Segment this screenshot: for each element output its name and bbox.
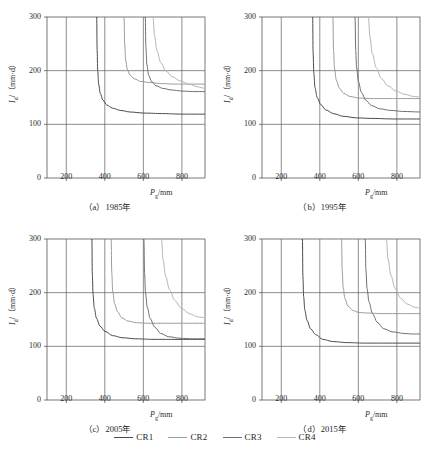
curve-group bbox=[96, 17, 205, 114]
panel-caption-a: （a）1985年 bbox=[0, 200, 215, 212]
plot-area-b bbox=[215, 0, 430, 200]
y-tick-label: 300 bbox=[230, 12, 256, 21]
x-tick-label: 600 bbox=[128, 172, 158, 181]
legend-item-cr1[interactable]: CR1 bbox=[114, 432, 153, 442]
y-tick-label: 0 bbox=[15, 395, 41, 404]
plot-frame bbox=[47, 239, 205, 400]
x-tick-label: 200 bbox=[266, 172, 296, 181]
chart-panel-b: Id/（mm·d） Pg/mm （b）1995年 010020030020040… bbox=[215, 0, 430, 225]
legend-line-icon bbox=[114, 437, 133, 438]
legend-line-icon bbox=[277, 437, 296, 438]
y-tick-label: 100 bbox=[15, 119, 41, 128]
curve-cr3 bbox=[354, 17, 420, 112]
panel-caption-b: （b）1995年 bbox=[215, 200, 430, 212]
legend-item-cr3[interactable]: CR3 bbox=[223, 432, 262, 442]
curve-group bbox=[312, 17, 420, 119]
y-tick-label: 200 bbox=[230, 288, 256, 297]
curve-cr2 bbox=[124, 17, 206, 84]
y-tick-label: 300 bbox=[230, 234, 256, 243]
x-tick-label: 600 bbox=[128, 394, 158, 403]
x-axis-label-b: Pg/mm bbox=[365, 188, 388, 199]
legend-item-cr4[interactable]: CR4 bbox=[277, 432, 316, 442]
legend-line-icon bbox=[223, 437, 242, 438]
curve-cr1 bbox=[91, 239, 205, 339]
y-tick-label: 100 bbox=[15, 341, 41, 350]
plot-frame bbox=[47, 17, 205, 178]
x-axis-label-c: Pg/mm bbox=[150, 410, 173, 421]
y-tick-label: 0 bbox=[230, 173, 256, 182]
legend-line-icon bbox=[168, 437, 187, 438]
y-tick-label: 200 bbox=[15, 288, 41, 297]
legend-item-cr2[interactable]: CR2 bbox=[168, 432, 207, 442]
plot-area-d bbox=[215, 222, 430, 422]
x-tick-label: 400 bbox=[305, 172, 335, 181]
x-tick-label: 400 bbox=[90, 172, 120, 181]
curve-cr1 bbox=[96, 17, 205, 114]
curve-cr4 bbox=[161, 239, 205, 318]
plot-area-c bbox=[0, 222, 215, 422]
x-tick-label: 200 bbox=[266, 394, 296, 403]
x-tick-label: 800 bbox=[382, 172, 412, 181]
chart-legend: CR1CR2CR3CR4 bbox=[0, 432, 430, 442]
x-tick-label: 400 bbox=[90, 394, 120, 403]
legend-label: CR3 bbox=[245, 432, 262, 442]
y-tick-label: 0 bbox=[15, 173, 41, 182]
curve-cr3 bbox=[365, 239, 420, 334]
chart-panel-a: Id/（mm·d） Pg/mm （a）1985年 010020030020040… bbox=[0, 0, 215, 225]
y-tick-label: 100 bbox=[230, 119, 256, 128]
x-axis-label-a: Pg/mm bbox=[150, 188, 173, 199]
curve-group bbox=[91, 239, 205, 339]
chart-panel-d: Id/（mm·d） Pg/mm （d）2015年 010020030020040… bbox=[215, 222, 430, 447]
y-tick-label: 100 bbox=[230, 341, 256, 350]
x-tick-label: 800 bbox=[167, 394, 197, 403]
x-tick-label: 600 bbox=[343, 172, 373, 181]
curve-cr2 bbox=[332, 17, 420, 99]
y-tick-label: 200 bbox=[15, 66, 41, 75]
curve-cr4 bbox=[385, 239, 420, 308]
chart-panel-c: Id/（mm·d） Pg/mm （c）2005年 010020030020040… bbox=[0, 222, 215, 447]
y-tick-label: 0 bbox=[230, 395, 256, 404]
legend-label: CR1 bbox=[136, 432, 153, 442]
y-tick-label: 300 bbox=[15, 12, 41, 21]
curve-cr4 bbox=[152, 17, 205, 88]
x-tick-label: 600 bbox=[343, 394, 373, 403]
curve-cr2 bbox=[341, 239, 420, 314]
x-tick-label: 200 bbox=[51, 172, 81, 181]
x-axis-label-d: Pg/mm bbox=[365, 410, 388, 421]
curve-cr3 bbox=[143, 239, 205, 339]
y-tick-label: 200 bbox=[230, 66, 256, 75]
x-tick-label: 200 bbox=[51, 394, 81, 403]
curve-cr2 bbox=[111, 239, 205, 323]
curve-cr4 bbox=[368, 17, 420, 97]
legend-label: CR2 bbox=[190, 432, 207, 442]
legend-label: CR4 bbox=[299, 432, 316, 442]
x-tick-label: 800 bbox=[382, 394, 412, 403]
figure-container: Id/（mm·d） Pg/mm （a）1985年 010020030020040… bbox=[0, 0, 430, 461]
plot-frame bbox=[262, 17, 420, 178]
plot-frame bbox=[262, 239, 420, 400]
x-tick-label: 800 bbox=[167, 172, 197, 181]
y-tick-label: 300 bbox=[15, 234, 41, 243]
curve-cr1 bbox=[312, 17, 420, 119]
plot-area-a bbox=[0, 0, 215, 200]
x-tick-label: 400 bbox=[305, 394, 335, 403]
